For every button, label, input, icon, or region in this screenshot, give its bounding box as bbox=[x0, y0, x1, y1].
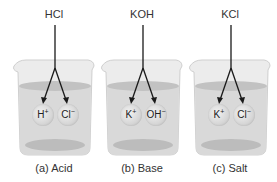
ion-cation: K+ bbox=[120, 104, 142, 126]
formula-label: KOH bbox=[96, 8, 188, 20]
beaker-icon bbox=[96, 0, 188, 182]
panel-base: KOH K+ OH− (b) Base bbox=[96, 0, 188, 182]
panel-salt: KCl K+ Cl− (c) Salt bbox=[184, 0, 276, 182]
formula-label: KCl bbox=[184, 8, 276, 20]
beaker-icon bbox=[184, 0, 276, 182]
panel-caption: (b) Base bbox=[96, 162, 188, 174]
ion-cation: K+ bbox=[208, 104, 230, 126]
ion-cation: H+ bbox=[32, 104, 54, 126]
panel-caption: (c) Salt bbox=[184, 162, 276, 174]
panel-acid: HCl H+ Cl− (a) Acid bbox=[8, 0, 100, 182]
formula-label: HCl bbox=[8, 8, 100, 20]
ion-anion: Cl− bbox=[57, 104, 79, 126]
ion-anion: Cl− bbox=[233, 104, 255, 126]
panel-caption: (a) Acid bbox=[8, 162, 100, 174]
ion-anion: OH− bbox=[145, 104, 167, 126]
beaker-icon bbox=[8, 0, 100, 182]
